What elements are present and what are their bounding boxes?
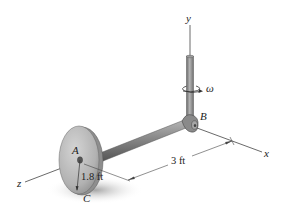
point-B-label: B	[200, 110, 207, 122]
vertical-shaft	[187, 56, 194, 122]
omega-label: ω	[206, 82, 214, 94]
x-axis-line	[197, 128, 262, 152]
y-axis-label: y	[185, 12, 191, 24]
disk	[59, 126, 103, 195]
joint-B	[182, 115, 198, 133]
shaft-top-cap	[187, 55, 194, 58]
rotating-shaft-disk-diagram: y x z ω B A 1.8 ft C 3 ft	[0, 0, 287, 216]
rod-length-label: 3 ft	[171, 155, 185, 166]
point-C-label: C	[83, 192, 91, 204]
x-axis-label: x	[263, 147, 269, 159]
z-axis-label: z	[16, 177, 22, 189]
radius-dimension-label: 1.8 ft	[81, 171, 103, 182]
point-A-label: A	[71, 144, 79, 156]
